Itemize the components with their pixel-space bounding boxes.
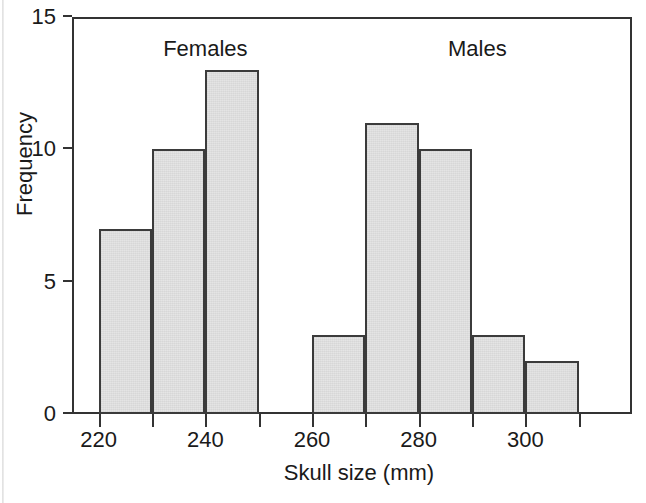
y-axis-title: Frequency (14, 112, 36, 216)
histogram-bar (419, 149, 472, 414)
histogram-bar (472, 335, 525, 414)
x-axis-tick-label: 280 (400, 429, 437, 451)
plot-area: 051015FemalesMales (72, 17, 632, 414)
y-axis-tick: 15 (63, 15, 72, 17)
histogram-bar (152, 149, 205, 414)
x-axis-tick-label: 220 (80, 429, 117, 451)
x-axis-tick-label: 260 (294, 429, 331, 451)
x-axis-tick (99, 414, 101, 427)
y-axis-tick: 10 (63, 147, 72, 149)
x-axis-tick (525, 414, 527, 427)
x-axis-title: Skull size (mm) (284, 462, 434, 484)
x-axis-tick (312, 414, 314, 427)
x-axis-tick (579, 414, 581, 427)
y-axis-tick-label: 15 (32, 6, 56, 28)
histogram-bar (312, 335, 365, 414)
y-axis-tick: 5 (63, 280, 72, 282)
x-axis-tick (419, 414, 421, 427)
x-axis-tick (365, 414, 367, 427)
x-axis-tick (259, 414, 261, 427)
histogram-bar (205, 70, 258, 414)
x-axis-tick-label: 300 (507, 429, 544, 451)
histogram-bar (365, 123, 418, 414)
x-axis-tick (472, 414, 474, 427)
group-annotation-label: Males (448, 38, 507, 60)
x-axis-tick (205, 414, 207, 427)
x-axis-tick-label: 240 (187, 429, 224, 451)
y-axis-tick-label: 0 (44, 403, 56, 425)
scanned-page-edge (2, 0, 4, 503)
histogram-bar (99, 229, 152, 414)
x-axis-tick (152, 414, 154, 427)
histogram-figure: 051015FemalesMales 220240260280300 Frequ… (0, 0, 646, 503)
y-axis-tick-label: 5 (44, 270, 56, 292)
group-annotation-label: Females (163, 38, 247, 60)
histogram-bar (525, 361, 578, 414)
y-axis-tick: 0 (63, 412, 72, 414)
